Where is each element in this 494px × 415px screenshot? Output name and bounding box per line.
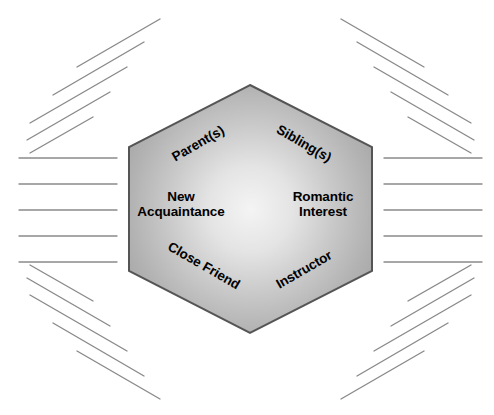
radiating-lines-right xyxy=(384,158,482,262)
radiating-lines-left xyxy=(19,158,117,262)
label-new-acquaintance: New Acquaintance xyxy=(126,189,236,219)
radiating-lines-bottom-left xyxy=(27,265,160,399)
radiating-lines-top-left xyxy=(27,19,160,153)
figure-canvas: Parent(s) Sibling(s) New Acquaintance Ro… xyxy=(0,0,494,415)
radiating-lines-top-right xyxy=(341,19,474,153)
hexagon-diagram xyxy=(0,0,494,415)
radiating-lines-bottom-right xyxy=(341,265,474,399)
label-romantic-interest: Romantic Interest xyxy=(268,189,378,219)
